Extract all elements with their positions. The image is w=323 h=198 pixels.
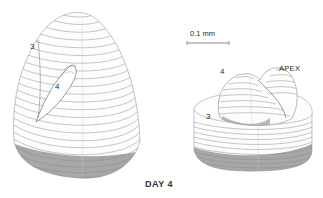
illustration <box>0 0 323 198</box>
scale-bar <box>187 41 229 45</box>
right-label-4: 4 <box>220 68 224 76</box>
right-label-3: 3 <box>206 113 210 121</box>
left-label-4: 4 <box>55 83 59 91</box>
right-specimen <box>190 68 316 180</box>
scale-bar-label: 0.1 mm <box>190 30 215 38</box>
figure: 3 4 0.1 mm 4 APEX 3 DAY 4 <box>0 0 323 198</box>
figure-caption: DAY 4 <box>145 180 173 189</box>
left-label-3: 3 <box>30 43 34 51</box>
left-specimen <box>10 12 145 190</box>
right-label-apex: APEX <box>279 65 300 73</box>
